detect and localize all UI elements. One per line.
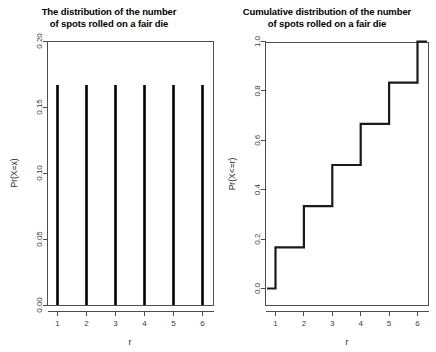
cdf-y-ticklabel-0: 0.0 [253, 282, 262, 294]
cdf-y-ticklabel-5: 1.0 [253, 35, 262, 47]
cdf-x-ticklabel-6: 6 [415, 319, 420, 328]
pmf-plot-box [48, 42, 214, 306]
cdf-y-ticklabel-4: 0.8 [253, 85, 262, 97]
pmf-y-ticklabel-3: 0.15 [35, 99, 44, 115]
cdf-x-ticklabel-5: 5 [387, 319, 392, 328]
cdf-x-ticklabel-2: 2 [302, 319, 307, 328]
pmf-x-axis-label: r [129, 337, 132, 347]
pmf-x-ticklabel-5: 5 [171, 319, 176, 328]
cdf-y-axis-label: Pr(X<=r) [227, 158, 237, 191]
pmf-y-ticklabel-0: 0.00 [35, 297, 44, 313]
pmf-x-ticklabel-3: 3 [113, 319, 118, 328]
cdf-x-ticklabel-1: 1 [273, 319, 278, 328]
pmf-y-ticklabel-1: 0.05 [35, 231, 44, 247]
cdf-panel: Cumulative distribution of the number of… [218, 0, 436, 352]
pmf-plot: 0.00 0.05 0.10 0.15 0.20 1 2 3 4 5 6 r P… [0, 0, 218, 352]
pmf-y-ticklabel-2: 0.10 [35, 165, 44, 181]
cdf-x-axis-label: r [346, 337, 349, 347]
cdf-plot: 0.0 0.2 0.4 0.6 0.8 1.0 1 2 3 4 5 6 r Pr… [218, 0, 436, 352]
cdf-y-ticklabel-1: 0.2 [253, 233, 262, 245]
cdf-x-ticklabel-4: 4 [358, 319, 363, 328]
pmf-x-ticklabel-6: 6 [200, 319, 205, 328]
cdf-y-ticklabel-2: 0.4 [253, 184, 262, 196]
cdf-step-curve [267, 42, 427, 289]
pmf-y-ticklabel-4: 0.20 [35, 33, 44, 49]
pmf-x-ticklabel-4: 4 [142, 319, 147, 328]
pmf-x-ticklabel-1: 1 [55, 319, 60, 328]
cdf-y-ticklabel-3: 0.6 [253, 134, 262, 146]
pmf-y-axis-label: Pr(X=x) [9, 158, 19, 187]
cdf-x-ticklabel-3: 3 [330, 319, 335, 328]
pmf-x-ticklabel-2: 2 [84, 319, 89, 328]
pmf-spikes [58, 85, 203, 305]
pmf-panel: The distribution of the number of spots … [0, 0, 218, 352]
